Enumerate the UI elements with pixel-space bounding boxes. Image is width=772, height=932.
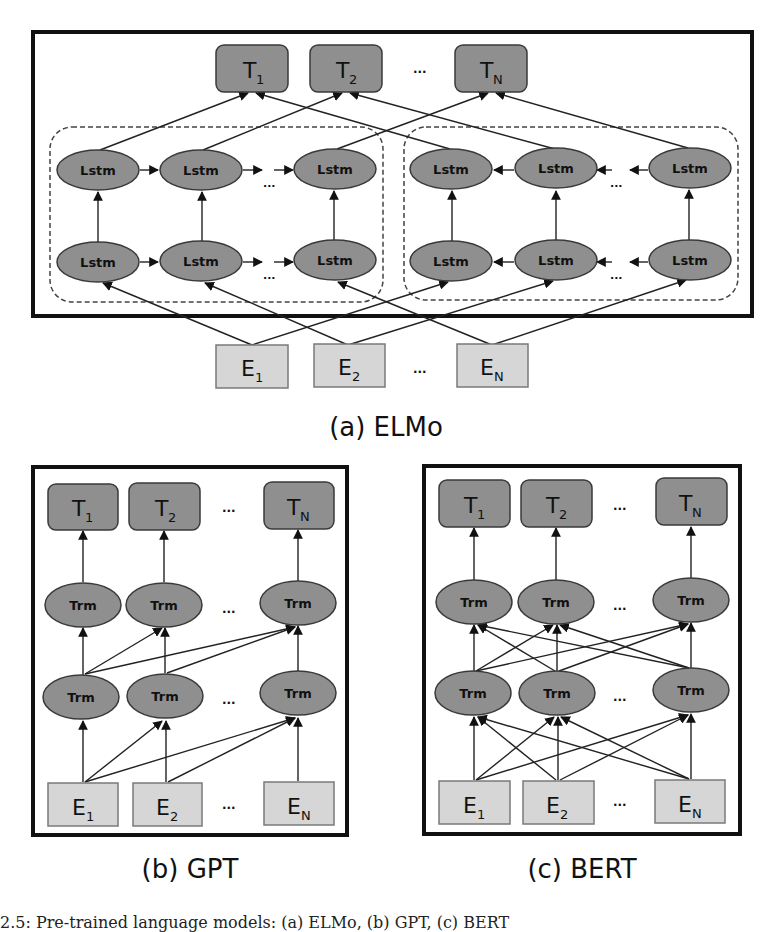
svg-text:Lstm: Lstm (538, 161, 574, 176)
elmo-ellipsis: ... (263, 177, 276, 190)
elmo-input-edges (103, 280, 686, 345)
svg-text:Lstm: Lstm (433, 254, 469, 269)
svg-text:E: E (287, 794, 301, 819)
gpt-panel: T 1 T 2 ... T N Trm Trm Trm Trm Trm Trm (33, 467, 347, 884)
svg-text:E: E (156, 795, 170, 820)
svg-text:E: E (72, 795, 86, 820)
elmo-input-ellipsis: ... (413, 362, 427, 376)
svg-text:Lstm: Lstm (672, 253, 708, 268)
bert-output-ellipsis: ... (613, 499, 627, 513)
bert-output-t1: T 1 (439, 480, 510, 527)
svg-text:T: T (545, 493, 560, 518)
svg-text:Lstm: Lstm (80, 255, 116, 270)
figure-caption: 2.5: Pre-trained language models: (a) EL… (0, 913, 509, 932)
elmo-ellipsis: ... (610, 269, 623, 282)
svg-text:Trm: Trm (677, 683, 704, 698)
elmo-input-en: E N (457, 344, 528, 387)
svg-text:Trm: Trm (69, 598, 96, 613)
svg-text:N: N (494, 369, 504, 384)
svg-text:T: T (242, 58, 257, 83)
svg-text:2: 2 (349, 72, 357, 87)
svg-text:T: T (154, 496, 169, 521)
elmo-vertical-edges (98, 190, 689, 243)
svg-text:E: E (480, 355, 494, 380)
svg-text:Lstm: Lstm (672, 161, 708, 176)
svg-text:Trm: Trm (67, 690, 94, 705)
svg-text:1: 1 (86, 809, 94, 824)
svg-text:E: E (678, 792, 692, 817)
gpt-input-e1: E 1 (48, 783, 118, 826)
elmo-panel: T 1 T 2 ... T N Lstm Lstm Lstm Lstm Lstm (33, 32, 752, 442)
svg-text:Trm: Trm (284, 686, 311, 701)
svg-text:T: T (479, 58, 494, 83)
elmo-lstm-nodes: Lstm Lstm Lstm Lstm Lstm Lstm Lstm Lstm … (57, 148, 731, 282)
svg-text:2: 2 (559, 507, 567, 522)
bert-caption: (c) BERT (527, 854, 636, 884)
svg-text:1: 1 (255, 370, 263, 385)
elmo-output-tn: T N (455, 45, 527, 92)
svg-text:1: 1 (477, 807, 485, 822)
elmo-caption: (a) ELMo (329, 412, 443, 442)
elmo-output-t2: T 2 (310, 45, 382, 92)
bert-input-en: E N (655, 780, 725, 823)
svg-text:2: 2 (560, 807, 568, 822)
svg-text:Lstm: Lstm (317, 253, 353, 268)
elmo-frame (33, 32, 752, 316)
svg-text:N: N (692, 806, 702, 821)
svg-text:E: E (546, 793, 560, 818)
svg-text:T: T (335, 58, 350, 83)
svg-text:E: E (338, 355, 352, 380)
gpt-input-en: E N (264, 782, 334, 825)
bert-ellipsis: ... (613, 690, 627, 704)
gpt-ellipsis: ... (222, 693, 236, 707)
svg-text:T: T (71, 496, 86, 521)
gpt-output-ellipsis: ... (222, 501, 236, 515)
svg-text:Lstm: Lstm (317, 162, 353, 177)
gpt-edges (83, 530, 298, 782)
svg-text:T: T (463, 493, 478, 518)
gpt-output-tn: T N (264, 482, 334, 529)
svg-text:Lstm: Lstm (183, 254, 219, 269)
gpt-caption: (b) GPT (142, 854, 239, 884)
elmo-input-e1: E 1 (216, 345, 288, 388)
svg-text:Trm: Trm (543, 686, 570, 701)
svg-text:Lstm: Lstm (80, 163, 116, 178)
svg-text:E: E (463, 793, 477, 818)
bert-input-ellipsis: ... (613, 795, 627, 809)
svg-text:1: 1 (85, 510, 93, 525)
svg-text:Lstm: Lstm (538, 253, 574, 268)
gpt-output-t1: T 1 (48, 484, 118, 530)
gpt-input-ellipsis: ... (222, 798, 236, 812)
svg-text:Trm: Trm (460, 595, 487, 610)
elmo-output-t1: T 1 (216, 45, 288, 92)
elmo-output-edges (100, 93, 688, 150)
svg-text:1: 1 (256, 72, 264, 87)
svg-text:E: E (241, 356, 255, 381)
elmo-ellipsis: ... (610, 177, 623, 190)
svg-text:Lstm: Lstm (183, 163, 219, 178)
svg-text:2: 2 (352, 369, 360, 384)
gpt-input-e2: E 2 (133, 783, 202, 826)
svg-text:N: N (301, 808, 311, 823)
svg-text:Lstm: Lstm (433, 162, 469, 177)
bert-ellipsis: ... (613, 599, 627, 613)
svg-text:T: T (678, 491, 693, 516)
svg-text:Trm: Trm (677, 593, 704, 608)
elmo-input-e2: E 2 (314, 344, 385, 387)
svg-text:N: N (300, 509, 310, 524)
svg-text:2: 2 (168, 510, 176, 525)
gpt-ellipsis: ... (222, 602, 236, 616)
svg-text:Trm: Trm (542, 595, 569, 610)
bert-panel: T 1 T 2 ... T N Trm Trm Trm Trm Trm Trm (424, 466, 740, 884)
bert-output-t2: T 2 (521, 480, 592, 527)
svg-text:Trm: Trm (459, 686, 486, 701)
svg-text:1: 1 (477, 507, 485, 522)
svg-text:Trm: Trm (150, 598, 177, 613)
elmo-ellipsis: ... (263, 269, 276, 282)
bert-input-e1: E 1 (439, 781, 510, 824)
svg-text:2: 2 (170, 809, 178, 824)
svg-text:N: N (493, 72, 503, 87)
bert-edges (474, 527, 691, 780)
bert-input-e2: E 2 (523, 781, 594, 824)
